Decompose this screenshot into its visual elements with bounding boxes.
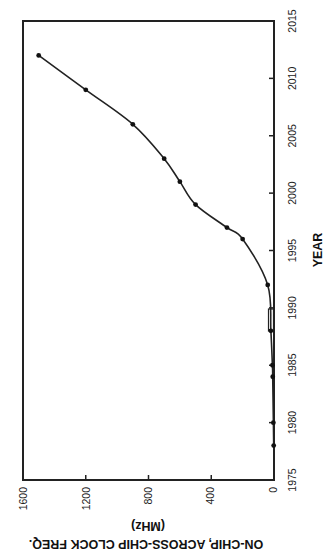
data-point [270, 363, 275, 368]
freq-tick-400: 400 [204, 487, 216, 505]
data-point [271, 420, 276, 425]
clock-frequency-chart: 0 400 800 1200 1600 1975 1980 1985 1990 … [0, 0, 332, 560]
year-tick-1990: 1990 [286, 296, 298, 320]
y-axis-units: (MHz) [131, 519, 165, 533]
data-point [162, 156, 167, 161]
freq-tick-1600: 1600 [17, 487, 29, 511]
data-point [193, 202, 198, 207]
data-point [265, 283, 270, 288]
year-tick-2005: 2005 [286, 124, 298, 148]
data-point [225, 225, 230, 230]
data-point [83, 87, 88, 92]
plot-frame [23, 21, 274, 480]
year-tick-1995: 1995 [286, 239, 298, 263]
data-point [270, 374, 275, 379]
year-tick-1980: 1980 [286, 411, 298, 435]
freq-tick-800: 800 [142, 487, 154, 505]
y-axis-title: ON-CHIP, ACROSS-CHIP CLOCK FREQ. [29, 537, 264, 551]
year-tick-1975: 1975 [286, 468, 298, 492]
x-axis-title: YEAR [311, 233, 325, 268]
year-tick-2010: 2010 [286, 67, 298, 91]
freq-tick-1200: 1200 [80, 487, 92, 511]
year-tick-1985: 1985 [286, 353, 298, 377]
data-markers [36, 53, 276, 448]
frequency-tick-labels: 0 400 800 1200 1600 [17, 487, 279, 511]
data-point [36, 53, 41, 58]
data-point [130, 122, 135, 127]
data-line [39, 55, 274, 445]
data-point [240, 237, 245, 242]
freq-tick-0: 0 [267, 487, 279, 493]
data-point [177, 179, 182, 184]
data-point [271, 443, 276, 448]
year-tick-2015: 2015 [286, 9, 298, 33]
year-tick-labels: 1975 1980 1985 1990 1995 2000 2005 2010 … [286, 9, 298, 492]
year-tick-2000: 2000 [286, 181, 298, 205]
data-point [268, 328, 273, 333]
